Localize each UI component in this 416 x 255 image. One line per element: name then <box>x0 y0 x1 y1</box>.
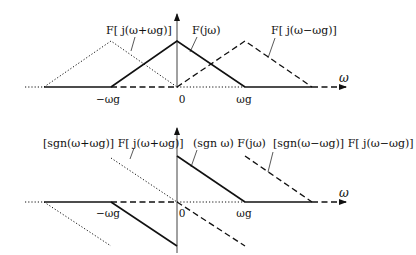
tick-neg-omega-g: −ωg <box>96 93 120 105</box>
label-F: F(jω) <box>192 24 221 37</box>
label-F-shift-minus: F[ j(ω−ωg)] <box>271 24 337 37</box>
curve-F-shift-minus <box>177 41 312 87</box>
leader-left <box>131 37 135 51</box>
tick-zero-bottom: 0 <box>179 207 186 219</box>
leader-center <box>190 37 197 52</box>
top-panel: F[ j(ω+ωg)] F(jω) F[ j(ω−ωg)] −ωg 0 ωg ω <box>25 14 349 105</box>
leader-bottom-right <box>268 152 273 172</box>
label-sgn-shift-plus: [sgn(ω+ωg)] F[ j(ω+ωg)] <box>43 137 184 150</box>
label-F-shift-plus: F[ j(ω+ωg)] <box>106 24 172 37</box>
bottom-panel: [sgn(ω+ωg)] F[ j(ω+ωg)] (sgn ω) F(jω) [s… <box>25 128 414 253</box>
curve-F-shift-plus <box>44 41 177 87</box>
label-sgn-F: (sgn ω) F(jω) <box>193 137 266 150</box>
curve-sgn-shift-minus-upper <box>245 156 312 202</box>
leader-right <box>268 38 275 58</box>
spectrum-shift-diagram: F[ j(ω+ωg)] F(jω) F[ j(ω−ωg)] −ωg 0 ωg ω <box>0 0 416 255</box>
tick-omega-g: ωg <box>236 93 252 105</box>
x-axis-label-bottom: ω <box>339 186 349 200</box>
tick-omega-g-bottom: ωg <box>236 207 252 219</box>
curve-sgn-F-lower <box>111 202 177 246</box>
tick-neg-omega-g-bottom: −ωg <box>96 207 120 219</box>
label-sgn-shift-minus: [sgn(ω−ωg)] F[ j(ω−ωg)] <box>273 137 414 150</box>
curve-F <box>111 41 245 87</box>
curve-sgn-shift-minus-lower <box>177 202 245 246</box>
leader-bottom-center <box>191 150 197 167</box>
tick-zero: 0 <box>179 93 186 105</box>
curve-sgn-F-upper <box>177 156 245 202</box>
x-axis-label: ω <box>339 71 349 85</box>
curve-sgn-shift-plus-upper <box>111 158 177 202</box>
